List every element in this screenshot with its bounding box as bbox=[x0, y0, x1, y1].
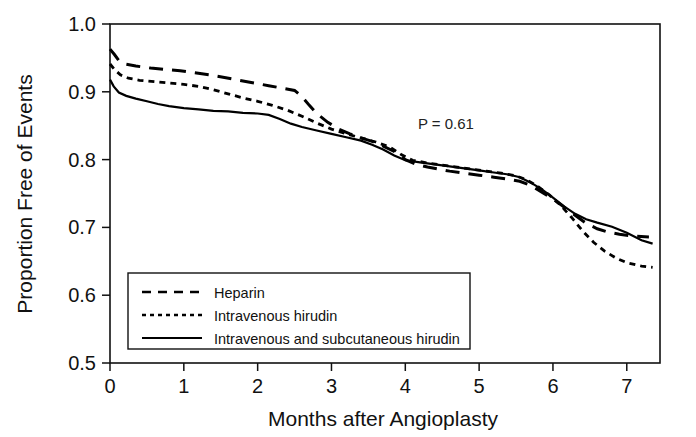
legend-label-2: Intravenous and subcutaneous hirudin bbox=[214, 331, 460, 347]
survival-curve-chart: 01234567 0.50.60.70.80.91.0 P = 0.61 Hep… bbox=[0, 0, 696, 437]
p-value-annotation: P = 0.61 bbox=[418, 115, 474, 132]
y-axis-title: Proportion Free of Events bbox=[13, 74, 36, 313]
y-tick-label-0.9: 0.9 bbox=[68, 81, 96, 103]
legend-label-0: Heparin bbox=[214, 285, 265, 301]
series-lines bbox=[110, 49, 653, 267]
y-tick-label-0.6: 0.6 bbox=[68, 284, 96, 306]
y-tick-label-1.0: 1.0 bbox=[68, 13, 96, 35]
y-tick-label-0.8: 0.8 bbox=[68, 149, 96, 171]
chart-page: 01234567 0.50.60.70.80.91.0 P = 0.61 Hep… bbox=[0, 0, 696, 437]
x-tick-label-3: 3 bbox=[326, 375, 337, 397]
x-axis-ticks: 01234567 bbox=[104, 363, 632, 397]
x-tick-label-2: 2 bbox=[252, 375, 263, 397]
chart-legend: HeparinIntravenous hirudinIntravenous an… bbox=[128, 273, 470, 349]
x-tick-label-7: 7 bbox=[621, 375, 632, 397]
x-tick-label-5: 5 bbox=[474, 375, 485, 397]
x-axis-title: Months after Angioplasty bbox=[268, 407, 498, 430]
y-tick-label-0.5: 0.5 bbox=[68, 352, 96, 374]
y-axis-ticks: 0.50.60.70.80.91.0 bbox=[68, 13, 110, 374]
y-tick-label-0.7: 0.7 bbox=[68, 216, 96, 238]
series-line-1 bbox=[110, 64, 653, 267]
legend-label-1: Intravenous hirudin bbox=[214, 308, 337, 324]
x-tick-label-4: 4 bbox=[400, 375, 411, 397]
annotation-p-value: P = 0.61 bbox=[418, 115, 474, 132]
x-tick-label-6: 6 bbox=[547, 375, 558, 397]
x-tick-label-1: 1 bbox=[178, 375, 189, 397]
x-tick-label-0: 0 bbox=[104, 375, 115, 397]
